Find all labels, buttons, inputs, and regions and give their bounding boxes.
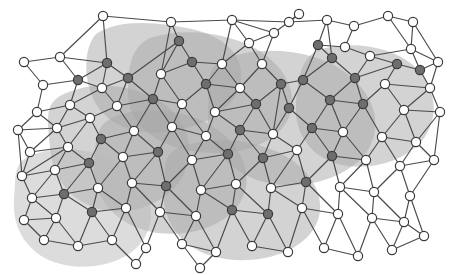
- graph-node: [353, 251, 362, 260]
- graph-node: [268, 129, 277, 138]
- graph-node: [227, 205, 236, 214]
- graph-node: [19, 57, 28, 66]
- graph-node: [148, 94, 157, 103]
- graph-node: [32, 107, 41, 116]
- graph-node: [121, 203, 130, 212]
- graph-node: [59, 189, 68, 198]
- graph-edge: [374, 192, 404, 222]
- graph-node: [98, 11, 107, 20]
- graph-node: [96, 134, 105, 143]
- graph-node: [235, 125, 244, 134]
- graph-node: [123, 73, 132, 82]
- graph-node: [350, 73, 359, 82]
- graph-node: [73, 241, 82, 250]
- graph-edge: [354, 16, 388, 26]
- graph-edge: [324, 248, 358, 256]
- graph-edge: [374, 166, 400, 192]
- graph-node: [107, 235, 116, 244]
- graph-node: [387, 245, 396, 254]
- graph-node: [39, 235, 48, 244]
- graph-node: [365, 51, 374, 60]
- graph-node: [251, 99, 260, 108]
- graph-edge: [171, 20, 232, 22]
- graph-node: [392, 59, 401, 68]
- graph-edge: [324, 214, 338, 248]
- graph-node: [383, 11, 392, 20]
- graph-node: [156, 69, 165, 78]
- graph-node: [63, 142, 72, 151]
- graph-node: [292, 145, 301, 154]
- graph-node: [51, 213, 60, 222]
- graph-node: [17, 171, 26, 180]
- graph-node: [153, 147, 162, 156]
- graph-node: [195, 263, 204, 272]
- graph-node: [380, 79, 389, 88]
- graph-node: [73, 75, 82, 84]
- graph-node: [65, 100, 74, 109]
- graph-node: [112, 101, 121, 110]
- graph-node: [210, 107, 219, 116]
- graph-node: [298, 75, 307, 84]
- graph-node: [167, 122, 176, 131]
- graph-node: [419, 231, 428, 240]
- graph-edge: [232, 20, 289, 22]
- network-graph-canvas: [0, 0, 455, 275]
- graph-node: [223, 149, 232, 158]
- graph-node: [266, 183, 275, 192]
- graph-node: [313, 40, 322, 49]
- graph-node: [55, 52, 64, 61]
- graph-node: [322, 15, 331, 24]
- graph-node: [50, 165, 59, 174]
- graph-node: [399, 105, 408, 114]
- graph-node: [177, 99, 186, 108]
- graph-node: [247, 241, 256, 250]
- graph-edge: [340, 187, 372, 218]
- graph-node: [102, 58, 111, 67]
- graph-node: [269, 28, 278, 37]
- graph-node: [340, 42, 349, 51]
- graph-node: [201, 79, 210, 88]
- graph-node: [307, 123, 316, 132]
- graph-edge: [24, 57, 60, 62]
- graph-node: [87, 207, 96, 216]
- graph-node: [52, 123, 61, 132]
- graph-node: [129, 126, 138, 135]
- graph-node: [84, 158, 93, 167]
- graph-node: [325, 95, 334, 104]
- graph-node: [187, 57, 196, 66]
- graph-node: [27, 193, 36, 202]
- graph-node: [395, 161, 404, 170]
- graph-node: [13, 125, 22, 134]
- graph-node: [131, 259, 140, 268]
- graph-node: [263, 209, 272, 218]
- graph-node: [161, 181, 170, 190]
- graph-edge: [43, 80, 78, 85]
- graph-edge: [289, 20, 327, 22]
- graph-node: [244, 38, 253, 47]
- graph-node: [258, 153, 267, 162]
- graph-node: [377, 132, 386, 141]
- graph-node: [411, 137, 420, 146]
- graph-node: [405, 191, 414, 200]
- graph-node: [433, 57, 442, 66]
- graph-node: [97, 83, 106, 92]
- graph-node: [127, 178, 136, 187]
- graph-node: [25, 147, 34, 156]
- graph-node: [408, 17, 417, 26]
- graph-node: [93, 183, 102, 192]
- graph-node: [284, 103, 293, 112]
- graph-node: [333, 209, 342, 218]
- graph-edge: [372, 218, 392, 250]
- graph-node: [38, 80, 47, 89]
- graph-node: [284, 17, 293, 26]
- graph-node: [166, 17, 175, 26]
- graph-node: [301, 177, 310, 186]
- graph-node: [425, 83, 434, 92]
- graph-node: [327, 151, 336, 160]
- graph-edge: [358, 218, 372, 256]
- graph-edge: [232, 20, 274, 33]
- graph-node: [231, 179, 240, 188]
- graph-node: [118, 152, 127, 161]
- graph-edge: [338, 214, 358, 256]
- graph-node: [369, 187, 378, 196]
